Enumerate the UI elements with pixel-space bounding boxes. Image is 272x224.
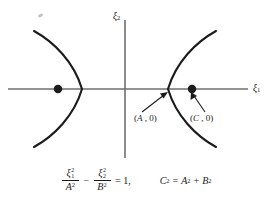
focus-annotation-label: (C , 0) [190,114,213,123]
hyperbola-figure: ξ2 ξ1 (A , 0) (C , 0) ξ21 A2 − ξ22 B2 = … [0,0,272,224]
second-fraction-denominator: B2 [95,181,108,192]
first-fraction-numerator: ξ21 [64,168,76,180]
x-axis-label-subscript: 1 [257,86,260,93]
equation-row: ξ21 A2 − ξ22 B2 = 1, C2 = A2 + B2 [0,168,272,193]
focus-leader-arrow [191,92,206,112]
relation-plus: + [191,175,203,186]
first-fraction-numerator-sub: 1 [71,174,74,180]
second-fraction-denominator-sup: 2 [103,181,106,188]
second-fraction-numerator: ξ22 [96,168,108,180]
vertex-leader-arrow [142,92,168,112]
hyperbola-standard-equation: ξ21 A2 − ξ22 B2 = 1, [60,168,133,193]
right-focus-point [188,85,196,93]
second-fraction: ξ22 B2 [94,168,111,193]
first-fraction: ξ21 A2 [62,168,79,193]
relation-c-base: C [160,175,167,186]
vertex-annotation-rest: , 0) [143,113,157,123]
vertex-annotation-label: (A , 0) [134,114,157,123]
y-axis-label: ξ2 [113,12,120,22]
second-fraction-numerator-base: ξ [98,167,102,178]
relation-equals: = [170,175,182,186]
minus-operator: − [80,175,92,186]
first-fraction-numerator-base: ξ [66,167,70,178]
focal-relation-equation: C2 = A2 + B2 [160,175,212,186]
equals-one: = 1, [112,175,134,186]
focus-annotation-rest: , 0) [199,113,213,123]
second-fraction-numerator-sub: 2 [103,174,106,180]
left-focus-point [54,85,62,93]
first-fraction-denominator: A2 [64,181,77,192]
relation-b-sup: 2 [208,177,211,184]
x-axis-label: ξ1 [253,84,260,94]
first-fraction-denominator-sup: 2 [72,181,75,188]
y-axis-label-subscript: 2 [117,14,120,21]
